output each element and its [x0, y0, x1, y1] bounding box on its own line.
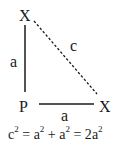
- side-vertical-label: a: [10, 54, 17, 70]
- vertex-right-label: X: [99, 99, 111, 115]
- vertex-corner-label: P: [19, 99, 28, 115]
- eq-exp: 2: [98, 124, 103, 134]
- eq-equals: =: [19, 127, 34, 142]
- hypotenuse-dashed: [34, 21, 97, 94]
- pythagorean-equation: c2 = a2 + a2 = 2a2: [8, 128, 103, 142]
- side-horizontal-label: a: [61, 108, 68, 124]
- eq-equals-2: = 2: [70, 127, 92, 142]
- side-hypotenuse-label: c: [70, 38, 77, 54]
- eq-plus: +: [44, 127, 59, 142]
- vertex-top-label: X: [19, 8, 31, 24]
